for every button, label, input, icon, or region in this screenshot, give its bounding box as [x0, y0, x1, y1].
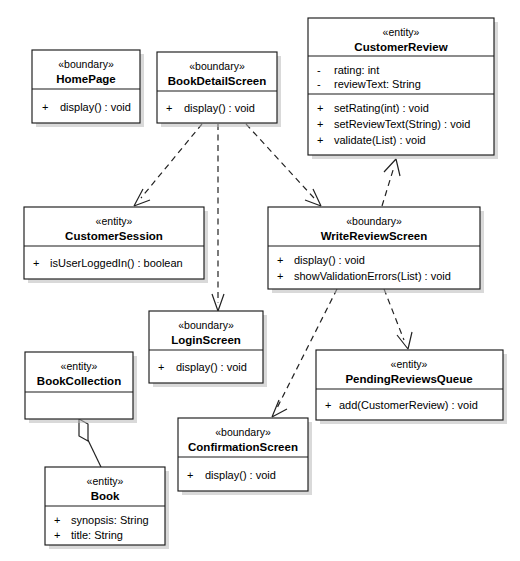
class-book-detail-screen[interactable]: «boundary» BookDetailScreen + display() … [157, 52, 281, 127]
class-stereotype: «boundary» [215, 426, 271, 438]
class-confirmation-screen[interactable]: «boundary» ConfirmationScreen + display(… [178, 418, 312, 495]
operation-signature: display() : void [205, 469, 276, 481]
class-name: BookDetailScreen [168, 75, 266, 87]
dependency-writereviewscreen-pendingreviewsqueue[interactable] [384, 289, 412, 349]
operation-visibility: + [42, 101, 48, 113]
operation-signature: display() : void [294, 254, 365, 266]
dependency-bookdetailscreen-loginscreen[interactable] [212, 124, 224, 311]
class-name: LoginScreen [171, 334, 241, 346]
operation-signature: setRating(int) : void [334, 102, 429, 114]
aggregation-bookcollection-book[interactable] [79, 419, 101, 467]
operation-signature: isUserLoggedIn() : boolean [50, 257, 183, 269]
attribute-visibility: - [317, 64, 321, 76]
operation-signature: setReviewText(String) : void [334, 118, 470, 130]
operation-signature: validate(List) : void [334, 134, 426, 146]
class-stereotype: «entity» [383, 26, 420, 38]
uml-class-diagram: «boundary» HomePage + display() : void «… [0, 0, 520, 561]
dependency-bookdetailscreen-customersession[interactable] [134, 124, 202, 206]
operation-signature: display() : void [184, 102, 255, 114]
class-name: ConfirmationScreen [188, 441, 298, 453]
operation-visibility: + [325, 399, 331, 411]
operation-signature: add(CustomerReview) : void [339, 399, 478, 411]
class-name: Book [91, 490, 120, 502]
operation-visibility: + [317, 118, 323, 130]
operation-visibility: + [317, 134, 323, 146]
operation-visibility: + [158, 361, 164, 373]
attribute-visibility: + [54, 529, 60, 541]
class-book-collection[interactable]: «entity» BookCollection [25, 352, 137, 423]
class-stereotype: «entity» [61, 360, 98, 372]
class-login-screen[interactable]: «boundary» LoginScreen + display() : voi… [149, 311, 267, 387]
attribute-signature: synopsis: String [71, 514, 149, 526]
class-stereotype: «boundary» [58, 58, 114, 70]
class-home-page[interactable]: «boundary» HomePage + display() : void [32, 50, 144, 127]
operation-visibility: + [317, 102, 323, 114]
dependency-writereviewscreen-customerreview[interactable] [382, 159, 400, 206]
class-customer-review[interactable]: «entity» CustomerReview - rating: int - … [308, 18, 498, 159]
class-name: WriteReviewScreen [321, 230, 428, 242]
class-stereotype: «boundary» [346, 215, 402, 227]
attribute-signature: title: String [71, 529, 123, 541]
operation-visibility: + [277, 270, 283, 282]
class-stereotype: «boundary» [178, 319, 234, 331]
class-pending-reviews-queue[interactable]: «entity» PendingReviewsQueue + add(Custo… [316, 350, 507, 424]
class-name: CustomerReview [354, 41, 447, 53]
class-stereotype: «entity» [391, 358, 428, 370]
class-stereotype: «entity» [96, 215, 133, 227]
attribute-visibility: - [317, 78, 321, 90]
operation-visibility: + [166, 102, 172, 114]
attribute-visibility: + [54, 514, 60, 526]
attribute-signature: reviewText: String [334, 78, 421, 90]
operation-visibility: + [277, 254, 283, 266]
class-name: CustomerSession [65, 230, 163, 242]
class-book[interactable]: «entity» Book + synopsis: String + title… [45, 467, 169, 549]
class-name: PendingReviewsQueue [345, 373, 472, 385]
operation-signature: display() : void [60, 101, 131, 113]
attribute-signature: rating: int [334, 64, 379, 76]
class-name: HomePage [56, 73, 115, 85]
diagram-canvas: «boundary» HomePage + display() : void «… [0, 0, 520, 561]
class-name: BookCollection [37, 375, 121, 387]
operation-signature: display() : void [176, 361, 247, 373]
class-stereotype: «boundary» [189, 60, 245, 72]
operation-visibility: + [187, 469, 193, 481]
class-stereotype: «entity» [87, 475, 124, 487]
operation-signature: showValidationErrors(List) : void [294, 270, 451, 282]
class-customer-session[interactable]: «entity» CustomerSession + isUserLoggedI… [24, 207, 208, 283]
class-write-review-screen[interactable]: «boundary» WriteReviewScreen + display()… [268, 207, 484, 293]
operation-visibility: + [33, 257, 39, 269]
